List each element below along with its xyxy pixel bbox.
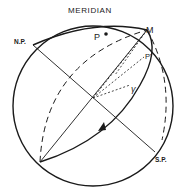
meridian-circle [13,26,173,186]
north-pole-label: N.P. [14,38,26,45]
p-label: P [94,32,100,42]
meridian-label: MERIDIAN [68,6,112,15]
south-pole-label: S.P. [155,156,167,163]
direction-arrow-icon [98,122,106,131]
celestial-sphere-diagram: MERIDIAN N.P. S.P. M P P' γ [0,0,185,187]
m-to-p-prime [115,30,147,75]
m-label: M [146,25,154,35]
gamma-label: γ [131,84,136,94]
dashed-right-arc [147,30,166,140]
p-prime-label: P' [145,52,152,61]
point-p-dot [104,32,108,36]
